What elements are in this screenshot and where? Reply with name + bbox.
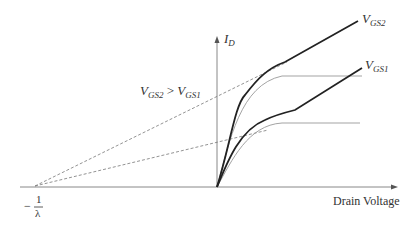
y-axis-label: ID xyxy=(224,31,235,48)
intercept-sign: − xyxy=(24,199,31,214)
curve-vgs2 xyxy=(217,21,358,187)
x-axis-arrow-icon xyxy=(391,185,398,190)
ideal-curve-gs1 xyxy=(217,123,360,187)
y-axis-arrow-icon xyxy=(215,36,220,43)
x-axis-label: Drain Voltage xyxy=(333,194,400,209)
extrapolation-line-gs2 xyxy=(35,62,287,186)
curve-label-vgs2: VGS2 xyxy=(362,11,385,28)
curve-label-vgs1: VGS1 xyxy=(365,57,388,74)
intercept-numerator: 1 xyxy=(36,193,42,205)
ideal-curve-gs2 xyxy=(217,76,362,187)
extrapolation-line-gs1 xyxy=(35,130,268,186)
relation-label: VGS2 > VGS1 xyxy=(140,83,201,100)
intercept-denominator: λ xyxy=(35,207,40,219)
mosfet-iv-diagram xyxy=(0,0,415,226)
